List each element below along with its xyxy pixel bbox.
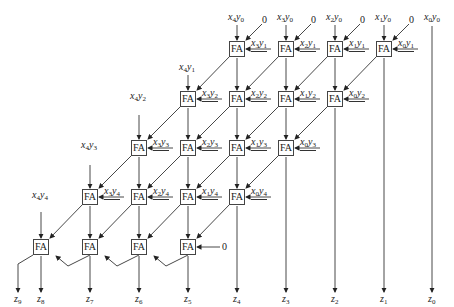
fa-cell-r4c0: FA (33, 239, 49, 255)
input-label: x4y2 (130, 91, 146, 104)
output-label: z4 (233, 294, 240, 307)
fa-cell-r4c2: FA (131, 239, 147, 255)
input-label: x2y1 (300, 38, 316, 52)
fa-cell-r1c0: FA (180, 91, 196, 107)
zero-input: 0 (222, 241, 227, 252)
output-label: z1 (380, 294, 387, 307)
fa-cell-r3c0: FA (82, 189, 98, 205)
input-label-x0y0: x0y0 (424, 12, 440, 25)
input-label: x4y4 (32, 190, 48, 203)
fa-cell-r3c2: FA (180, 189, 196, 205)
input-label: x2y3 (202, 137, 218, 151)
output-label: z7 (86, 294, 93, 307)
input-label: x4y3 (81, 140, 97, 153)
zero-input: 0 (360, 14, 365, 25)
input-label: x4y1 (179, 62, 195, 75)
input-label: x0y4 (251, 186, 267, 200)
fa-cell-r2c1: FA (180, 140, 196, 156)
array-multiplier-diagram: FA FA FA FA FA FA FA FA FA FA FA FA FA F… (0, 0, 454, 307)
fa-cell-r0c1: FA (278, 41, 294, 57)
fa-cell-r1c3: FA (327, 91, 343, 107)
input-label: x3y4 (104, 186, 120, 200)
zero-input: 0 (311, 14, 316, 25)
input-label: x3y3 (153, 137, 169, 151)
fa-cell-r3c1: FA (131, 189, 147, 205)
output-label: z9 (14, 294, 21, 307)
input-label: x2y2 (251, 88, 267, 102)
input-label: x4y0 (228, 12, 244, 25)
input-label: x1y1 (349, 38, 365, 52)
output-label: z8 (37, 294, 44, 307)
input-label: x3y1 (251, 38, 267, 52)
output-label: z2 (331, 294, 338, 307)
fa-cell-r1c1: FA (229, 91, 245, 107)
fa-cell-r0c0: FA (229, 41, 245, 57)
zero-input: 0 (262, 14, 267, 25)
fa-cell-r2c0: FA (131, 140, 147, 156)
fa-cell-r2c2: FA (229, 140, 245, 156)
fa-cell-r0c3: FA (376, 41, 392, 57)
input-label: x0y2 (349, 88, 365, 102)
input-label: x0y3 (300, 137, 316, 151)
input-label: x2y0 (326, 12, 342, 25)
fa-cell-r1c2: FA (278, 91, 294, 107)
output-label: z5 (184, 294, 191, 307)
fa-cell-r2c3: FA (278, 140, 294, 156)
fa-cell-r4c1: FA (82, 239, 98, 255)
input-label: x3y0 (277, 12, 293, 25)
input-label: x1y3 (251, 137, 267, 151)
output-label: z3 (282, 294, 289, 307)
output-label: z0 (428, 294, 435, 307)
input-label: x3y2 (202, 88, 218, 102)
zero-input: 0 (409, 14, 414, 25)
output-label: z6 (135, 294, 142, 307)
input-label: x1y2 (300, 88, 316, 102)
fa-cell-r3c3: FA (229, 189, 245, 205)
input-label: x0y1 (398, 38, 414, 52)
input-label: x1y4 (202, 186, 218, 200)
fa-cell-r0c2: FA (327, 41, 343, 57)
input-label: x1y0 (375, 12, 391, 25)
input-label: x2y4 (153, 186, 169, 200)
fa-cell-r4c3: FA (180, 239, 196, 255)
